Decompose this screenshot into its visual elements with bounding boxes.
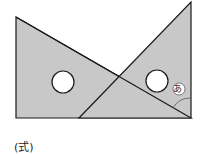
- set-squares-diagram: [0, 0, 208, 154]
- left-hole: [52, 71, 74, 93]
- right-hole: [146, 70, 168, 92]
- right-triangle: [79, 2, 191, 118]
- angle-label: あ: [173, 82, 182, 95]
- formula-label: (式): [14, 138, 34, 154]
